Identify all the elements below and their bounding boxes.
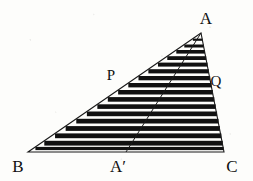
inscribed-bar [138, 76, 210, 80]
inscribed-bar [128, 83, 211, 87]
inscribed-bar [35, 147, 223, 150]
inscribed-bar [176, 50, 205, 54]
inscribed-bar [76, 119, 218, 124]
inscribed-bar [108, 97, 214, 102]
inscribed-bar [87, 112, 217, 117]
inscribed-bar [118, 90, 213, 95]
inscribed-bar [44, 141, 222, 146]
inscribed-bar [66, 126, 220, 131]
vertex-label-a-prime: A′ [110, 157, 126, 176]
inscribed-bar [167, 56, 206, 60]
vertex-label-b: B [12, 157, 23, 176]
figure-canvas: A B C A′ P Q [0, 0, 253, 181]
geometry-figure: A B C A′ P Q [0, 0, 253, 181]
vertex-label-a: A [200, 9, 213, 28]
inscribed-bar [97, 104, 215, 109]
inscribed-bar [148, 69, 208, 73]
point-label-p: P [107, 67, 115, 83]
point-label-q: Q [211, 73, 222, 89]
inscribed-bar [158, 63, 208, 67]
vertex-label-c: C [226, 157, 237, 176]
inscribed-bar [55, 133, 221, 138]
